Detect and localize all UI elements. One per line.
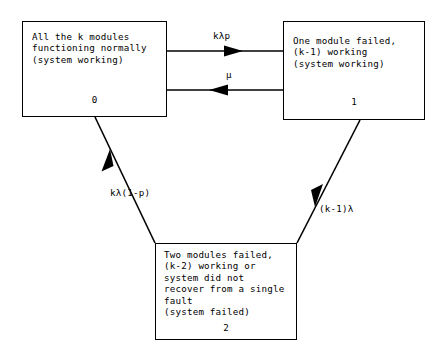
state-transition-diagram: All the k modules functioning normally (… [0,0,446,355]
edge-state1-to-state2 [297,120,360,243]
edge-state0-to-state2 [95,117,155,243]
state-box-1-id: 1 [283,96,425,107]
state-box-2-description: Two modules failed, (k-2) working or sys… [164,249,284,317]
transition-label-state1-to-state2: (k-1)λ [319,203,353,214]
state-box-2-id: 2 [155,322,297,333]
transition-label-state1-to-state0: μ [226,69,232,80]
state-box-0-id: 0 [22,94,167,105]
state-box-1-description: One module failed, (k-1) working (system… [293,35,396,69]
edge-state1-to-state0 [167,85,283,96]
transition-label-state0-to-state1: kλp [213,30,230,41]
state-box-0-description: All the k modules functioning normally (… [32,31,147,65]
edge-state0-to-state1 [167,46,283,57]
transition-label-state0-to-state2: kλ(1-p) [110,187,150,198]
